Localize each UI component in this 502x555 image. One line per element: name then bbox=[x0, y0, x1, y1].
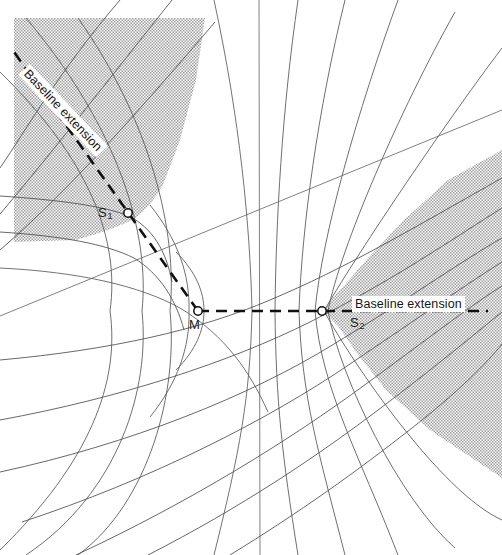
station-marker-m[interactable] bbox=[194, 307, 202, 315]
station-marker-s2[interactable] bbox=[318, 307, 326, 315]
station-marker-s1[interactable] bbox=[124, 209, 132, 217]
hyperbolic-navigation-diagram: Baseline extension Baseline extension S1… bbox=[0, 0, 502, 555]
ambiguity-zone-s2 bbox=[324, 150, 502, 478]
ambiguity-zone-s1 bbox=[14, 18, 205, 242]
lattice-canvas bbox=[0, 0, 502, 555]
